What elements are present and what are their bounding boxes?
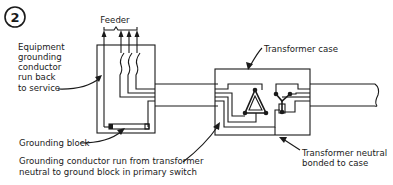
transformer-secondary-wiring xyxy=(270,84,310,135)
leader-line xyxy=(58,78,100,89)
svg-text:conductor: conductor xyxy=(18,62,62,72)
feeder-brace xyxy=(104,27,137,30)
grounding-block-label: Grounding block xyxy=(19,138,89,148)
transformer-neutral-label: Transformer neutral bonded to case xyxy=(301,148,387,168)
arrow-up-icon xyxy=(102,30,107,37)
svg-text:Grounding conductor run from t: Grounding conductor run from transformer xyxy=(19,156,204,166)
figure-number-badge: 2 xyxy=(5,7,25,27)
arrow-icon xyxy=(279,137,287,143)
svg-text:bonded to case: bonded to case xyxy=(302,158,368,168)
equipment-grounding-label: Equipment grounding conductor run back t… xyxy=(18,42,65,93)
svg-text:Transformer neutral: Transformer neutral xyxy=(301,148,387,158)
grounding-conductor-run-label: Grounding conductor run from transformer… xyxy=(19,156,204,177)
arrow-up-icon xyxy=(119,30,124,37)
transformer-case xyxy=(215,69,310,135)
transformer-case-label: Transformer case xyxy=(263,44,338,54)
delta-primary-winding xyxy=(243,88,269,116)
svg-text:neutral to ground block in pri: neutral to ground block in primary switc… xyxy=(19,167,197,177)
feeder-label: Feeder xyxy=(100,15,130,25)
svg-text:to service: to service xyxy=(18,83,60,93)
phase-conductors xyxy=(119,30,156,97)
grounding-diagram: 2 Feeder xyxy=(0,0,393,185)
arrow-up-icon xyxy=(135,30,140,37)
neutral-to-ground-block xyxy=(148,101,155,127)
figure-number: 2 xyxy=(10,10,19,25)
arrow-up-icon xyxy=(127,30,132,37)
leader-line xyxy=(283,139,300,150)
svg-text:Equipment: Equipment xyxy=(18,42,65,52)
wye-secondary-winding xyxy=(274,92,293,115)
svg-text:run back: run back xyxy=(18,72,56,82)
conduit-break-end xyxy=(375,84,379,106)
svg-text:grounding: grounding xyxy=(18,52,62,62)
grounding-block xyxy=(109,124,149,129)
leader-line xyxy=(250,48,262,66)
